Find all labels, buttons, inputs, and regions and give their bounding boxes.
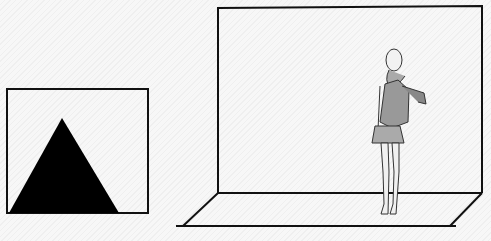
standing-figure — [372, 49, 426, 214]
backdrop-frame — [218, 6, 482, 193]
floor-plane — [176, 193, 482, 226]
illustration-canvas — [0, 0, 491, 241]
left-panel — [7, 89, 148, 213]
right-panel — [176, 6, 482, 226]
triangle-shape — [9, 118, 119, 213]
